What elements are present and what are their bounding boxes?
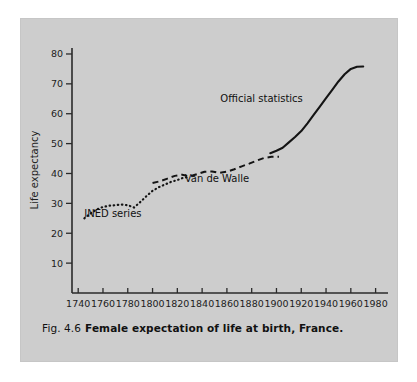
series-label-ined-series: INED series [84, 208, 141, 219]
x-tick-label: 1980 [364, 298, 388, 309]
series-label-official-statistics: Official statistics [220, 93, 302, 104]
chart-plot-area: 1020304050607080 Life expectancy 1740176… [20, 18, 398, 318]
y-tick-label: 50 [51, 138, 63, 149]
x-axis: 1740176017801800182018401860188019001920… [66, 288, 388, 309]
x-tick-label: 1800 [140, 298, 164, 309]
x-tick-label: 1960 [339, 298, 363, 309]
y-tick-label: 20 [51, 228, 63, 239]
figure-caption: Fig. 4.6Female expectation of life at bi… [42, 322, 382, 334]
chart-series-group [84, 67, 363, 219]
y-axis-title: Life expectancy [29, 130, 40, 209]
series-line-official-statistics [270, 67, 363, 154]
figure-number: Fig. 4.6 [42, 322, 81, 334]
chart-annotations: INED seriesVan de WalleOfficial statisti… [84, 93, 303, 219]
x-tick-label: 1760 [91, 298, 115, 309]
y-axis-tick-labels: 1020304050607080 [51, 48, 63, 268]
y-axis-ticks [66, 54, 72, 263]
x-tick-label: 1740 [66, 298, 90, 309]
x-tick-label: 1840 [190, 298, 214, 309]
x-tick-label: 1900 [264, 298, 288, 309]
x-axis-tick-labels: 1740176017801800182018401860188019001920… [66, 298, 388, 309]
y-tick-label: 10 [51, 258, 63, 269]
series-label-van-de-walle: Van de Walle [185, 173, 249, 184]
x-tick-label: 1780 [116, 298, 140, 309]
life-expectancy-line-chart: 1020304050607080 Life expectancy 1740176… [20, 18, 398, 318]
y-tick-label: 40 [51, 168, 63, 179]
y-axis: 1020304050607080 Life expectancy [29, 48, 72, 293]
x-tick-label: 1920 [289, 298, 313, 309]
x-tick-label: 1820 [165, 298, 189, 309]
x-tick-label: 1940 [314, 298, 338, 309]
y-tick-label: 30 [51, 198, 63, 209]
x-tick-label: 1880 [240, 298, 264, 309]
figure-panel: 1020304050607080 Life expectancy 1740176… [20, 18, 398, 362]
y-tick-label: 70 [51, 78, 63, 89]
figure-title: Female expectation of life at birth, Fra… [85, 322, 343, 334]
y-tick-label: 80 [51, 48, 63, 59]
y-tick-label: 60 [51, 108, 63, 119]
x-tick-label: 1860 [215, 298, 239, 309]
